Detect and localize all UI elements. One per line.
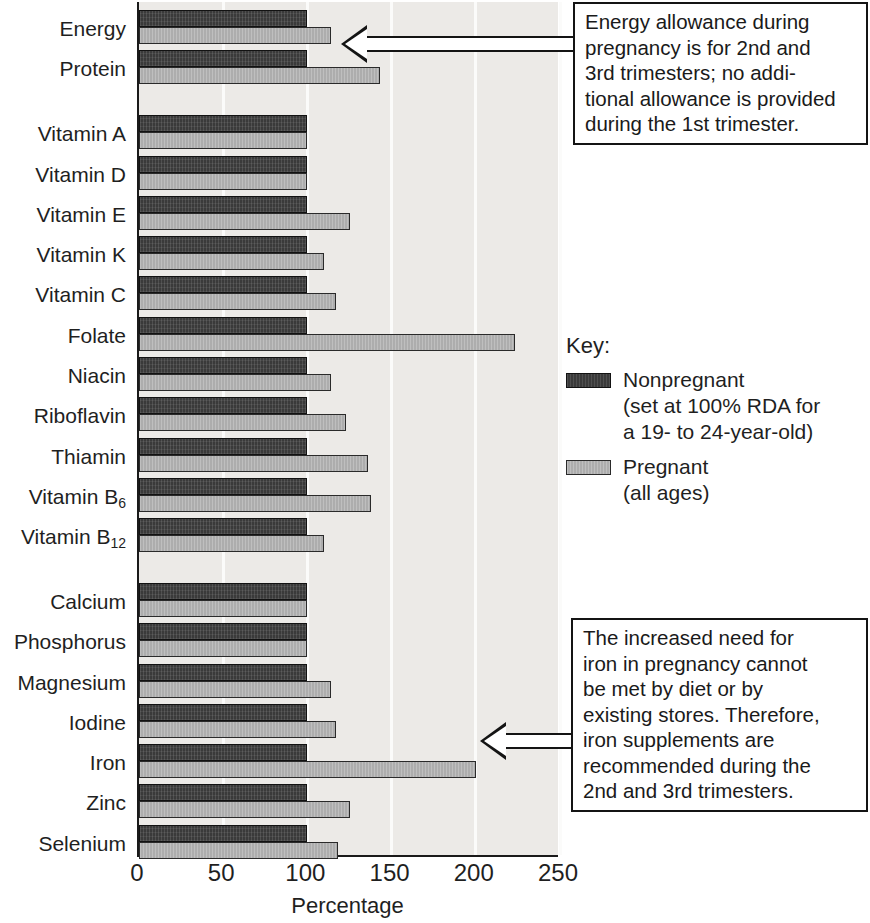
- bar-pregnant: [139, 761, 476, 778]
- gridline-250: [559, 2, 562, 855]
- category-label-vitamin-c: Vitamin C: [35, 284, 126, 305]
- legend-label-nonpregnant: Nonpregnant: [623, 367, 820, 393]
- bar-nonpregnant: [139, 744, 307, 761]
- callout-energy-text: Energy allowance during pregnancy is for…: [585, 9, 858, 137]
- category-label-calcium: Calcium: [50, 591, 126, 612]
- bar-nonpregnant: [139, 623, 307, 640]
- callout-iron-arrow-shaft: [505, 733, 571, 749]
- bar-pregnant: [139, 374, 331, 391]
- bar-nonpregnant: [139, 825, 307, 842]
- bar-nonpregnant: [139, 784, 307, 801]
- bar-pregnant: [139, 455, 368, 472]
- legend-item-nonpregnant: Nonpregnant (set at 100% RDA for a 19- t…: [566, 367, 866, 445]
- category-label-subscript: 12: [110, 535, 126, 551]
- bar-nonpregnant: [139, 438, 307, 455]
- bar-nonpregnant: [139, 704, 307, 721]
- category-label-text: Vitamin B: [21, 525, 111, 548]
- bar-nonpregnant: [139, 478, 307, 495]
- category-label-vitamin-e: Vitamin E: [37, 204, 127, 225]
- bar-nonpregnant: [139, 236, 307, 253]
- x-axis-title: Percentage: [137, 893, 558, 919]
- category-label-vitamin-b12: Vitamin B12: [21, 526, 126, 547]
- bar-pregnant: [139, 495, 371, 512]
- bar-pregnant: [139, 293, 336, 310]
- bar-pregnant: [139, 132, 307, 149]
- chart-figure: EnergyProteinVitamin AVitamin DVitamin E…: [0, 0, 870, 923]
- category-label-iodine: Iodine: [69, 712, 126, 733]
- category-label-phosphorus: Phosphorus: [14, 631, 126, 652]
- x-tick-0: 0: [130, 861, 143, 885]
- callout-energy-arrow-shaft: [366, 36, 573, 52]
- category-label-selenium: Selenium: [38, 833, 126, 854]
- legend-label-pregnant: Pregnant: [623, 454, 709, 480]
- category-label-energy: Energy: [59, 18, 126, 39]
- bar-nonpregnant: [139, 276, 307, 293]
- bar-nonpregnant: [139, 317, 307, 334]
- gridline-150: [390, 2, 393, 855]
- bar-pregnant: [139, 535, 324, 552]
- category-label-protein: Protein: [59, 58, 126, 79]
- bar-nonpregnant: [139, 10, 307, 27]
- category-label-folate: Folate: [68, 325, 126, 346]
- callout-iron: The increased need for iron in pregnancy…: [571, 618, 868, 812]
- x-tick-250: 250: [538, 861, 578, 885]
- category-label-vitamin-a: Vitamin A: [38, 123, 126, 144]
- x-tick-50: 50: [208, 861, 235, 885]
- legend-swatch-pregnant: [566, 460, 611, 475]
- category-label-subscript: 6: [118, 495, 126, 511]
- callout-iron-text: The increased need for iron in pregnancy…: [583, 625, 858, 804]
- bar-pregnant: [139, 27, 331, 44]
- bar-pregnant: [139, 67, 380, 84]
- bar-pregnant: [139, 681, 331, 698]
- legend: Key: Nonpregnant (set at 100% RDA for a …: [566, 333, 866, 515]
- x-tick-200: 200: [454, 861, 494, 885]
- bar-pregnant: [139, 842, 338, 859]
- legend-title: Key:: [566, 333, 866, 359]
- category-label-niacin: Niacin: [68, 365, 126, 386]
- legend-label-nonpregnant-group: Nonpregnant (set at 100% RDA for a 19- t…: [623, 367, 820, 445]
- legend-detail-pregnant: (all ages): [623, 480, 709, 506]
- bar-nonpregnant: [139, 196, 307, 213]
- x-tick-100: 100: [285, 861, 325, 885]
- category-label-riboflavin: Riboflavin: [34, 405, 126, 426]
- bar-pregnant: [139, 600, 307, 617]
- bar-nonpregnant: [139, 50, 307, 67]
- category-axis-labels: EnergyProteinVitamin AVitamin DVitamin E…: [0, 2, 132, 857]
- bar-nonpregnant: [139, 583, 307, 600]
- category-label-vitamin-d: Vitamin D: [35, 164, 126, 185]
- category-label-text: Vitamin B: [29, 485, 119, 508]
- callout-energy: Energy allowance during pregnancy is for…: [573, 2, 868, 145]
- category-label-vitamin-k: Vitamin K: [37, 244, 127, 265]
- bar-pregnant: [139, 640, 307, 657]
- bar-pregnant: [139, 173, 307, 190]
- bar-nonpregnant: [139, 115, 307, 132]
- bar-nonpregnant: [139, 156, 307, 173]
- category-label-magnesium: Magnesium: [17, 672, 126, 693]
- bar-nonpregnant: [139, 397, 307, 414]
- category-label-vitamin-b6: Vitamin B6: [29, 486, 126, 507]
- bar-nonpregnant: [139, 664, 307, 681]
- legend-item-pregnant: Pregnant (all ages): [566, 454, 866, 506]
- legend-detail-nonpregnant: (set at 100% RDA for a 19- to 24-year-ol…: [623, 393, 820, 445]
- bar-pregnant: [139, 334, 515, 351]
- bar-pregnant: [139, 253, 324, 270]
- category-label-thiamin: Thiamin: [51, 446, 126, 467]
- category-label-iron: Iron: [90, 752, 126, 773]
- gridline-200: [474, 2, 477, 855]
- legend-label-pregnant-group: Pregnant (all ages): [623, 454, 709, 506]
- bar-pregnant: [139, 414, 346, 431]
- bar-pregnant: [139, 721, 336, 738]
- bar-nonpregnant: [139, 357, 307, 374]
- x-tick-150: 150: [370, 861, 410, 885]
- category-label-zinc: Zinc: [86, 792, 126, 813]
- bar-nonpregnant: [139, 518, 307, 535]
- legend-swatch-nonpregnant: [566, 373, 611, 388]
- bar-pregnant: [139, 801, 350, 818]
- bar-pregnant: [139, 213, 350, 230]
